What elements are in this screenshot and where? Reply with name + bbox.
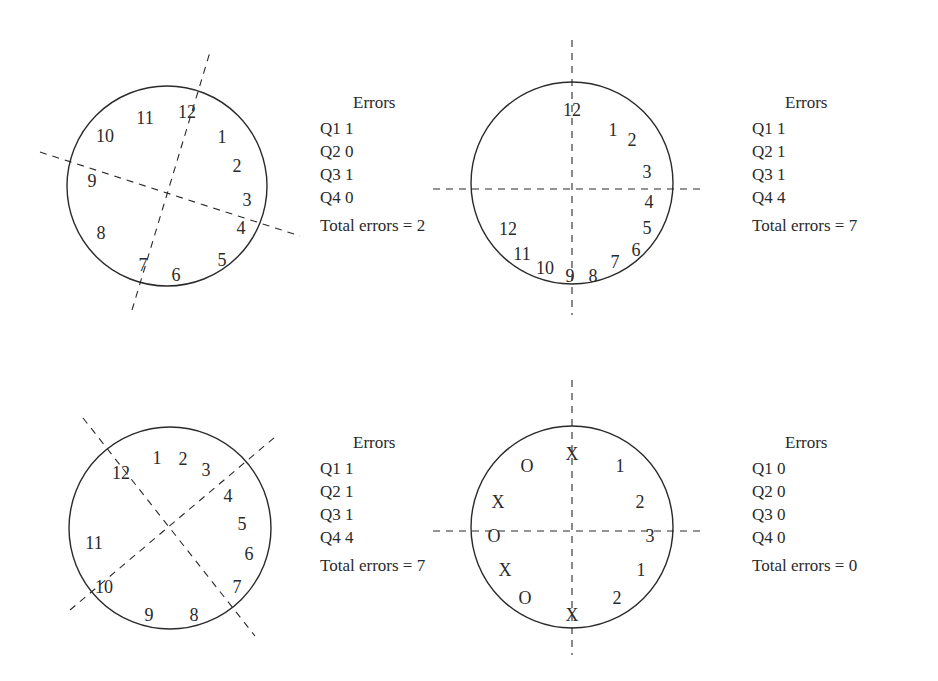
quadrant-row-q3: Q3 1 <box>320 163 425 186</box>
errors-title: Errors <box>752 91 857 114</box>
errors-table-2: Errors Q1 1 Q2 1 Q3 1 Q4 4 Total errors … <box>752 91 857 237</box>
quadrant-row-q4: Q4 4 <box>752 186 857 209</box>
clock-panel-1: 111210129348576 <box>40 52 300 310</box>
clock-number: 4 <box>645 192 654 212</box>
total-errors: Total errors = 0 <box>752 554 857 577</box>
clock-number: 1 <box>616 456 625 476</box>
quadrant-label: Q4 <box>752 188 773 207</box>
clock-number: 3 <box>646 526 655 546</box>
quadrant-label: Q3 <box>752 165 773 184</box>
quadrant-divider-line <box>40 152 300 236</box>
clock-number: 3 <box>243 190 252 210</box>
clock-number: 7 <box>233 577 242 597</box>
clock-number: 6 <box>245 544 254 564</box>
quadrant-row-q1: Q1 1 <box>752 117 857 140</box>
quadrant-label: Q2 <box>320 142 341 161</box>
clock-number: 2 <box>636 492 645 512</box>
clock-number: O <box>488 526 501 546</box>
clock-number: 9 <box>88 171 97 191</box>
clock-number: 3 <box>202 460 211 480</box>
quadrant-row-q1: Q1 1 <box>320 457 425 480</box>
clock-number: 9 <box>145 605 154 625</box>
quadrant-label: Q4 <box>320 528 341 547</box>
quadrant-value: 1 <box>345 165 354 184</box>
quadrant-value: 0 <box>777 482 786 501</box>
quadrant-label: Q3 <box>752 505 773 524</box>
quadrant-label: Q1 <box>320 119 341 138</box>
clock-panel-2: 12123451261171098 <box>433 40 700 315</box>
quadrant-value: 0 <box>777 528 786 547</box>
clock-number: X <box>566 605 579 625</box>
errors-table-4: Errors Q1 0 Q2 0 Q3 0 Q4 0 Total errors … <box>752 431 857 577</box>
errors-table-1: Errors Q1 1 Q2 0 Q3 1 Q4 0 Total errors … <box>320 91 425 237</box>
quadrant-divider-line <box>83 418 255 636</box>
errors-title: Errors <box>320 91 425 114</box>
quadrant-label: Q4 <box>320 188 341 207</box>
quadrant-value: 1 <box>777 142 786 161</box>
clock-number: X <box>492 492 505 512</box>
clock-number: 8 <box>190 605 199 625</box>
clock-number: 2 <box>613 588 622 608</box>
errors-title: Errors <box>320 431 425 454</box>
clock-number: 2 <box>179 449 188 469</box>
clock-number: O <box>521 456 534 476</box>
quadrant-value: 0 <box>345 142 354 161</box>
clock-number: 1 <box>637 560 646 580</box>
quadrant-value: 0 <box>777 505 786 524</box>
clock-number: 4 <box>224 486 233 506</box>
quadrant-row-q4: Q4 0 <box>320 186 425 209</box>
quadrant-value: 1 <box>777 119 786 138</box>
quadrant-value: 0 <box>777 459 786 478</box>
quadrant-row-q4: Q4 0 <box>752 526 857 549</box>
quadrant-row-q3: Q3 1 <box>752 163 857 186</box>
quadrant-value: 1 <box>777 165 786 184</box>
quadrant-value: 1 <box>345 459 354 478</box>
quadrant-value: 1 <box>345 505 354 524</box>
clock-number: 12 <box>499 219 517 239</box>
quadrant-row-q3: Q3 0 <box>752 503 857 526</box>
clock-panel-4: XO1X2O3X1O2X <box>433 380 700 655</box>
clock-number: 9 <box>566 266 575 286</box>
clock-number: 6 <box>172 265 181 285</box>
quadrant-label: Q1 <box>752 119 773 138</box>
quadrant-row-q3: Q3 1 <box>320 503 425 526</box>
clock-number: 11 <box>513 244 530 264</box>
quadrant-label: Q4 <box>752 528 773 547</box>
total-errors: Total errors = 7 <box>752 214 857 237</box>
clock-number: 5 <box>218 250 227 270</box>
quadrant-row-q2: Q2 1 <box>752 140 857 163</box>
quadrant-label: Q2 <box>752 142 773 161</box>
clock-number: 12 <box>563 100 581 120</box>
total-errors: Total errors = 2 <box>320 214 425 237</box>
clock-number: 11 <box>85 533 102 553</box>
clock-number: 10 <box>95 577 113 597</box>
clock-number: 8 <box>589 266 598 286</box>
clock-number: 1 <box>609 120 618 140</box>
clock-number: 1 <box>218 127 227 147</box>
clock-number: X <box>566 444 579 464</box>
quadrant-label: Q3 <box>320 505 341 524</box>
clock-number: 2 <box>628 130 637 150</box>
clock-number: 7 <box>611 252 620 272</box>
clock-number: 7 <box>139 255 148 275</box>
clock-number: 2 <box>233 156 242 176</box>
clock-face-circle <box>67 86 267 286</box>
clock-number: O <box>519 588 532 608</box>
quadrant-label: Q3 <box>320 165 341 184</box>
errors-title: Errors <box>752 431 857 454</box>
quadrant-row-q1: Q1 1 <box>320 117 425 140</box>
quadrant-label: Q2 <box>752 482 773 501</box>
clock-number: 3 <box>643 162 652 182</box>
quadrant-label: Q2 <box>320 482 341 501</box>
quadrant-label: Q1 <box>320 459 341 478</box>
clock-panel-3: 121234511610798 <box>69 418 275 636</box>
clock-number: X <box>499 560 512 580</box>
clock-number: 12 <box>112 463 130 483</box>
errors-table-3: Errors Q1 1 Q2 1 Q3 1 Q4 4 Total errors … <box>320 431 425 577</box>
clock-number: 10 <box>536 258 554 278</box>
clock-number: 5 <box>643 218 652 238</box>
quadrant-value: 4 <box>345 528 354 547</box>
clock-number: 8 <box>97 223 106 243</box>
quadrant-row-q2: Q2 1 <box>320 480 425 503</box>
clock-number: 1 <box>153 448 162 468</box>
